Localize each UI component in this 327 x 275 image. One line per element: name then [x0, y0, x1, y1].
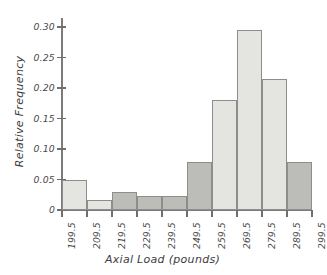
x-axis-title: Axial Load (pounds): [0, 253, 325, 266]
histogram-bar: [87, 200, 112, 210]
x-axis-tick: [261, 210, 262, 217]
x-axis-tick-label: 219.5: [116, 222, 127, 249]
x-axis-tick-label: 299.5: [316, 222, 327, 249]
histogram-bar: [187, 162, 212, 210]
x-axis-tick: [211, 210, 212, 217]
x-axis-tick: [286, 210, 287, 217]
x-axis-tick-label: 249.5: [191, 222, 202, 249]
x-axis-tick: [111, 210, 112, 217]
y-axis-tick-label: 0.05: [33, 174, 55, 185]
histogram-bar: [137, 196, 162, 210]
x-axis-tick: [186, 210, 187, 217]
x-axis-tick-label: 279.5: [266, 222, 277, 249]
x-axis-tick-label: 209.5: [91, 222, 102, 249]
x-axis-tick: [136, 210, 137, 217]
x-axis-tick-label: 259.5: [216, 222, 227, 249]
y-axis-title: Relative Frequency: [13, 37, 26, 187]
y-axis-tick-label: 0.15: [33, 113, 55, 124]
x-axis-tick: [61, 210, 62, 217]
x-axis-tick: [161, 210, 162, 217]
x-axis-tick-label: 289.5: [291, 222, 302, 249]
x-axis-tick-label: 239.5: [166, 222, 177, 249]
x-axis-tick: [236, 210, 237, 217]
histogram-bar: [112, 192, 137, 210]
histogram-bar: [162, 196, 187, 210]
y-axis-tick-labels: 00.050.100.150.200.250.30: [0, 0, 55, 275]
x-axis-tick-label: 199.5: [66, 222, 77, 249]
histogram-bar: [262, 79, 287, 210]
y-axis-tick-label: 0: [49, 204, 55, 215]
x-axis-tick: [311, 210, 312, 217]
y-axis-tick-label: 0.20: [33, 82, 55, 93]
histogram-bar: [212, 100, 237, 210]
y-axis-tick-label: 0.10: [33, 143, 55, 154]
x-axis-tick-label: 269.5: [241, 222, 252, 249]
bars-container: [62, 18, 312, 210]
y-axis-tick-label: 0.30: [33, 21, 55, 32]
histogram-bar: [287, 162, 312, 210]
y-axis-tick-label: 0.25: [33, 52, 55, 63]
histogram-bar: [62, 180, 87, 210]
x-axis-tick-label: 229.5: [141, 222, 152, 249]
x-axis-tick: [86, 210, 87, 217]
histogram-bar: [237, 30, 262, 210]
